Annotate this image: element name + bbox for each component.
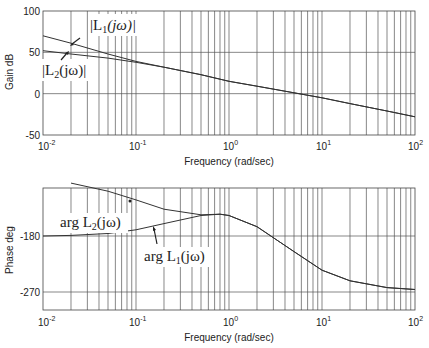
phase-xtick-1e-2: 10-2 — [38, 315, 55, 328]
gain-ytick-0: 0 — [34, 89, 40, 100]
gain-xtick-1e-1: 10-1 — [129, 139, 146, 152]
svg-text:arg L1(jω): arg L1(jω) — [144, 248, 205, 266]
gain-xtick-1e1: 101 — [316, 139, 331, 152]
phase-plot: -180 -270 10-2 10-1 100 101 102 Frequenc… — [4, 183, 423, 343]
phase-xtick-1e1: 101 — [316, 315, 331, 328]
gain-xlabel: Frequency (rad/sec) — [184, 156, 273, 167]
phase-grid — [43, 188, 415, 310]
gain-ytick-100: 100 — [23, 6, 40, 17]
svg-text:|L2(jω)|: |L2(jω)| — [42, 62, 86, 80]
phase-xlabel: Frequency (rad/sec) — [184, 332, 273, 343]
phase-xtick-1e2: 102 — [408, 315, 423, 328]
gain-xtick-1e-2: 10-2 — [38, 139, 55, 152]
gain-xtick-1e2: 102 — [408, 139, 423, 152]
gain-xticks: 10-2 10-1 100 101 102 — [38, 139, 423, 152]
phase-ytick-minus270: -270 — [20, 287, 40, 298]
svg-text:arg L2(jω): arg L2(jω) — [60, 214, 121, 232]
gain-ytick-minus50: -50 — [26, 130, 41, 141]
gain-xtick-1e0: 100 — [223, 139, 238, 152]
gain-plot: 100 50 0 -50 10-2 10-1 100 101 102 Frequ… — [4, 6, 423, 167]
annotation-L1-gain: |L1(jω)| — [70, 14, 145, 46]
phase-xtick-1e0: 100 — [223, 315, 238, 328]
phase-xtick-1e-1: 10-1 — [129, 315, 146, 328]
bode-plot: 100 50 0 -50 10-2 10-1 100 101 102 Frequ… — [0, 0, 429, 348]
arrow-L1-phase — [154, 229, 157, 244]
svg-text:|L1(jω)|: |L1(jω)| — [90, 17, 136, 35]
phase-xticks: 10-2 10-1 100 101 102 — [38, 315, 423, 328]
arrow-L1-gain — [72, 38, 80, 44]
gain-ytick-50: 50 — [29, 47, 41, 58]
arrowhead-icon — [153, 226, 156, 231]
phase-ytick-minus180: -180 — [20, 231, 40, 242]
arrow-L2-gain — [61, 53, 67, 60]
annotation-L2-phase: arg L2(jω) — [58, 200, 132, 234]
marker-dot — [129, 200, 132, 203]
annotation-L1-phase: arg L1(jω) — [142, 226, 214, 267]
gain-ylabel: Gain dB — [4, 54, 15, 90]
phase-ylabel: Phase deg — [4, 226, 15, 274]
